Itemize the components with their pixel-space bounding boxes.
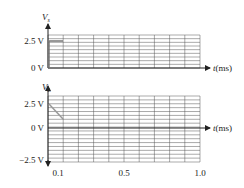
bottom-ytick-high: 2.5 V (24, 99, 44, 109)
top-chart: Vs 2.5 V 0 V t(ms) (24, 12, 232, 73)
top-ytick-zero: 0 V (31, 63, 45, 73)
chart-canvas: Vs 2.5 V 0 V t(ms) VL 2.5 V 0 V −2.5 V t… (0, 0, 244, 188)
top-ylabel: Vs (42, 12, 51, 23)
top-ytick-high: 2.5 V (24, 36, 44, 46)
bottom-ylabel: VL (42, 82, 52, 93)
bottom-ytick-zero: 0 V (31, 123, 45, 133)
bottom-xtick-0.5: 0.5 (118, 168, 130, 178)
top-xlabel: t(ms) (213, 63, 232, 73)
bottom-xlabel: t(ms) (213, 123, 232, 133)
top-grid (48, 35, 200, 68)
bottom-xtick-1.0: 1.0 (194, 168, 206, 178)
bottom-chart: VL 2.5 V 0 V −2.5 V t(ms) 0.1 0.5 1.0 (19, 82, 232, 178)
bottom-ytick-low: −2.5 V (19, 155, 44, 165)
bottom-grid (48, 96, 200, 162)
bottom-xtick-0.1: 0.1 (52, 168, 63, 178)
